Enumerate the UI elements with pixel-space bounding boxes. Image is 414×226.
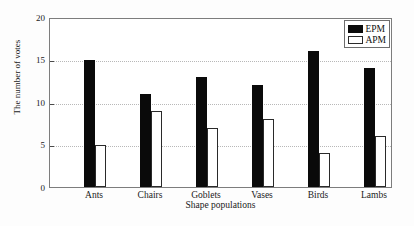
y-tick-mark-15 — [50, 61, 54, 62]
legend-entry-apm: APM — [348, 34, 386, 45]
y-tick-label-5: 5 — [15, 141, 45, 150]
legend-label-apm: APM — [365, 35, 386, 45]
chart-legend: EPM APM — [344, 20, 390, 48]
bar-apm-lambs — [375, 136, 386, 187]
bar-epm-vases — [252, 85, 263, 187]
bar-epm-lambs — [364, 68, 375, 187]
bar-epm-chairs — [140, 94, 151, 187]
bar-apm-goblets — [207, 128, 218, 187]
gridline-10 — [50, 104, 391, 105]
legend-entry-epm: EPM — [348, 23, 386, 34]
gridline-15 — [50, 61, 391, 62]
y-tick-label-0: 0 — [15, 184, 45, 193]
bar-epm-ants — [84, 60, 95, 187]
bar-epm-birds — [308, 51, 319, 187]
plot-area: EPM APM — [49, 18, 392, 188]
bar-apm-vases — [263, 119, 274, 187]
x-axis-title: Shape populations — [49, 200, 392, 211]
legend-swatch-apm-icon — [348, 36, 363, 44]
chart-figure: 20 15 10 5 0 The number of votes — [0, 0, 414, 226]
legend-swatch-epm-icon — [348, 25, 363, 33]
bar-apm-chairs — [151, 111, 162, 187]
bar-apm-ants — [95, 145, 106, 187]
bar-epm-goblets — [196, 77, 207, 187]
y-tick-mark-5 — [50, 146, 54, 147]
y-axis-title: The number of votes — [12, 22, 22, 132]
legend-label-epm: EPM — [365, 24, 385, 34]
y-tick-mark-10 — [50, 104, 54, 105]
bar-apm-birds — [319, 153, 330, 187]
